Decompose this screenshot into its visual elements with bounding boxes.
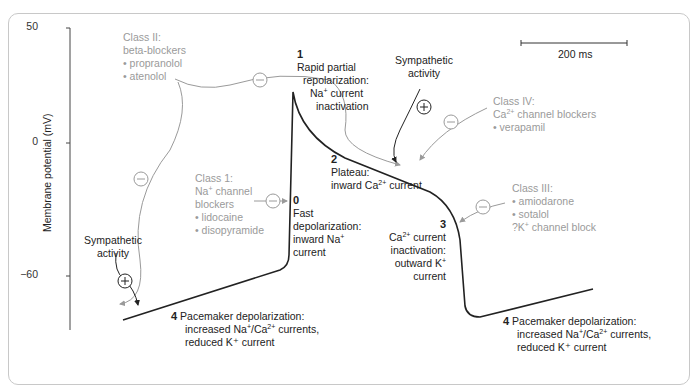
class4-minus: [444, 115, 458, 129]
phase-1-number: 1: [297, 48, 369, 61]
phase-3-number: 3: [376, 218, 446, 231]
phase-4-line: reduced K⁺ current: [503, 341, 651, 354]
class4-line: • verapamil: [493, 121, 596, 134]
phase-1-line: Rapid partial: [297, 61, 369, 74]
phase-4-number: 4: [503, 315, 509, 327]
class2-title: Class II:: [123, 31, 186, 44]
phase-0-line: current: [293, 246, 361, 259]
class1-title: Class 1:: [195, 172, 264, 185]
class3-line: • amiodarone: [512, 195, 596, 208]
sympathetic-label-top: Sympathetic activity: [386, 54, 462, 80]
phase-3-label: 3 Ca2+ current inactivation: outward K+ …: [376, 218, 446, 283]
class3-label: Class III: • amiodarone • sotalol ?K+ ch…: [512, 182, 596, 234]
class4-title: Class IV:: [493, 95, 596, 108]
phase-4-number: 4: [171, 310, 177, 322]
class2-line: • propranolol: [123, 57, 186, 70]
class3-minus: [476, 200, 490, 214]
class2-line: • atenolol: [123, 70, 186, 83]
class2-minus-left: [134, 172, 148, 186]
phase-3-line: inactivation:: [376, 244, 446, 257]
phase-0-number: 0: [293, 194, 361, 207]
sympathetic-label-bottom: Sympathetic activity: [75, 234, 151, 260]
class2-minus-top: [253, 73, 267, 87]
sympathetic-line1: Sympathetic: [75, 234, 151, 247]
scale-bar: [521, 40, 627, 46]
phase-4-label-right: 4 Pacemaker depolarization: increased Na…: [503, 315, 651, 354]
class1-line: • lidocaine: [195, 211, 264, 224]
sympathetic-plus-bottom: [118, 274, 132, 288]
phase-2-line: Plateau:: [331, 166, 422, 179]
class1-line: • disopyramide: [195, 224, 264, 237]
class3-title: Class III:: [512, 182, 596, 195]
scale-bar-label: 200 ms: [558, 48, 592, 61]
phase-3-line: current: [376, 270, 446, 283]
phase-0-line: depolarization:: [293, 220, 361, 233]
class2-line: beta-blockers: [123, 44, 186, 57]
phase-4-line: Pacemaker depolarization:: [512, 315, 636, 327]
class3-line: • sotalol: [512, 208, 596, 221]
class1-line: blockers: [195, 198, 264, 211]
y-axis: [66, 28, 70, 330]
phase-0-label: 0 Fast depolarization: inward Na+ curren…: [293, 194, 361, 259]
sympathetic-line2: activity: [75, 247, 151, 260]
sympathetic-line1: Sympathetic: [386, 54, 462, 67]
class1-minus: [266, 194, 280, 208]
phase-2-label: 2 Plateau: inward Ca2+ current: [331, 153, 422, 192]
class1-label: Class 1: Na+ channel blockers • lidocain…: [195, 172, 264, 237]
class4-label: Class IV: Ca2+ channel blockers • verapa…: [493, 95, 596, 134]
phase-4-label-left: 4 Pacemaker depolarization: increased Na…: [171, 310, 319, 349]
phase-2-number: 2: [331, 153, 422, 166]
sympathetic-line2: activity: [386, 67, 462, 80]
phase-0-line: Fast: [293, 207, 361, 220]
phase-1-label: 1 Rapid partial repolarization: Na+ curr…: [297, 48, 369, 113]
sympathetic-plus-top: [417, 100, 431, 114]
phase-4-line: reduced K⁺ current: [171, 336, 319, 349]
class2-label: Class II: beta-blockers • propranolol • …: [123, 31, 186, 83]
phase-4-line: Pacemaker depolarization:: [180, 310, 304, 322]
